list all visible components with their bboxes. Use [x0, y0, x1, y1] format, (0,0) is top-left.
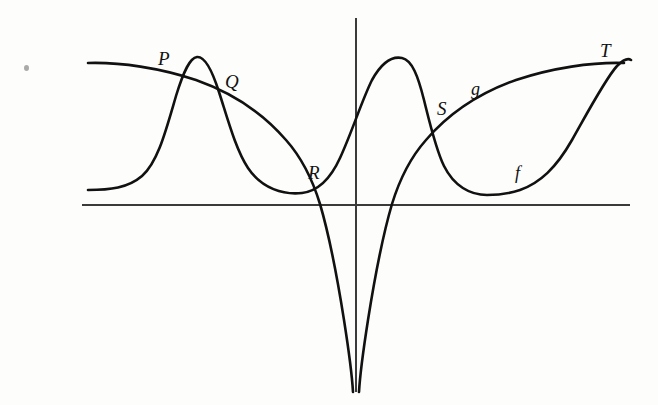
- point-label-S: S: [437, 99, 447, 118]
- math-graph-figure: P Q R S T g f: [0, 0, 658, 405]
- curve-label-f: f: [515, 164, 520, 182]
- point-label-P: P: [158, 49, 170, 68]
- axes-group: [82, 18, 630, 392]
- graph-canvas: [0, 0, 658, 405]
- point-label-Q: Q: [225, 72, 239, 91]
- point-label-T: T: [600, 41, 611, 60]
- curve-label-g: g: [471, 80, 480, 98]
- scan-speck-artifact: [24, 65, 29, 71]
- curve-f: [88, 57, 631, 195]
- curves-group: [88, 57, 631, 392]
- point-label-R: R: [308, 163, 320, 182]
